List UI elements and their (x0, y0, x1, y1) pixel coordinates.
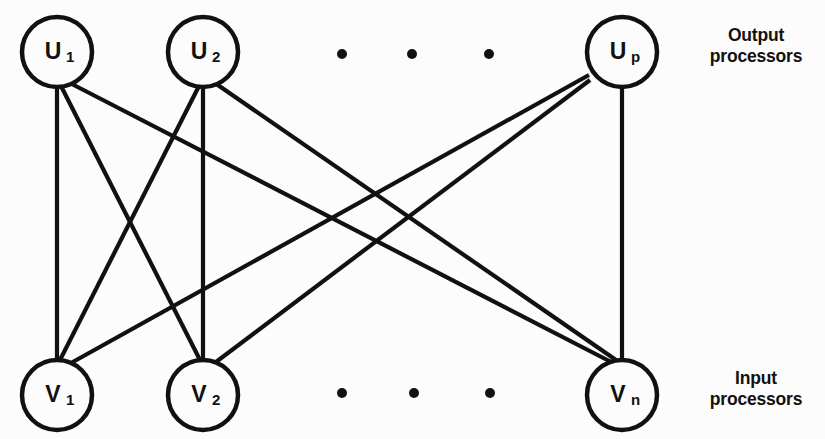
node-label-vn: V (610, 381, 626, 407)
ellipsis-dot-input-1 (337, 388, 347, 398)
node-v1[interactable]: V1 (22, 360, 92, 430)
node-u1[interactable]: U1 (22, 17, 92, 87)
ellipsis-dot-input-2 (409, 388, 419, 398)
diagram-canvas: U1U2UpV1V2Vn Output processors Input pro… (0, 0, 825, 439)
node-label-v2: V (191, 381, 207, 407)
node-subscript-vn: n (631, 391, 640, 408)
input-processors-label: Input processors (692, 368, 820, 409)
node-label-up: U (610, 38, 627, 64)
node-up[interactable]: Up (587, 17, 657, 87)
edge-up-v2 (208, 80, 590, 368)
ellipsis-dot-input-3 (485, 388, 495, 398)
node-label-u2: U (191, 38, 208, 64)
output-label-line1: Output (692, 25, 820, 46)
node-label-v1: V (45, 381, 61, 407)
ellipsis-dot-output-2 (407, 49, 417, 59)
node-subscript-v2: 2 (212, 391, 220, 408)
node-u2[interactable]: U2 (168, 17, 238, 87)
ellipsis-dot-output-1 (337, 49, 347, 59)
edges-group (57, 75, 622, 368)
input-label-line1: Input (692, 368, 820, 389)
node-subscript-up: p (631, 48, 640, 65)
ellipsis-dot-output-3 (484, 49, 494, 59)
output-processors-label: Output processors (692, 25, 820, 66)
output-label-line2: processors (692, 46, 820, 67)
node-subscript-u1: 1 (66, 48, 74, 65)
input-label-line2: processors (692, 389, 820, 410)
node-label-u1: U (45, 38, 62, 64)
node-v2[interactable]: V2 (168, 360, 238, 430)
node-subscript-v1: 1 (66, 391, 74, 408)
node-subscript-u2: 2 (212, 48, 220, 65)
node-vn[interactable]: Vn (587, 360, 657, 430)
